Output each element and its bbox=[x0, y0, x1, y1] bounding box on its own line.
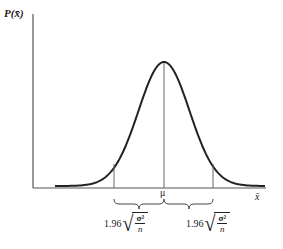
right-numerator: σ² bbox=[217, 213, 227, 224]
right-coef: 1.96 bbox=[186, 218, 204, 229]
right-fraction: σ² n bbox=[214, 212, 230, 234]
left-coef: 1.96 bbox=[104, 218, 122, 229]
left-interval-label: 1.96 √ σ² n bbox=[104, 212, 148, 234]
normal-curve bbox=[55, 62, 265, 186]
y-axis-label: P(x̄) bbox=[4, 7, 24, 19]
right-interval-brace bbox=[164, 199, 213, 209]
mean-tick-label: μ bbox=[160, 187, 165, 198]
x-axis-label: x̄ bbox=[255, 191, 259, 202]
right-denominator: n bbox=[220, 224, 225, 234]
left-numerator: σ² bbox=[135, 213, 145, 224]
sqrt-icon: √ σ² n bbox=[205, 212, 231, 234]
right-interval-label: 1.96 √ σ² n bbox=[186, 212, 230, 234]
sqrt-icon: √ σ² n bbox=[123, 212, 149, 234]
left-interval-brace bbox=[114, 199, 164, 209]
left-denominator: n bbox=[138, 224, 143, 234]
left-fraction: σ² n bbox=[132, 212, 148, 234]
